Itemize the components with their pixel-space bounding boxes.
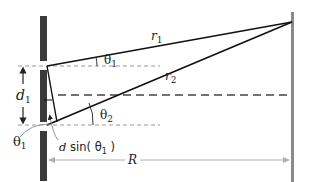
label-theta2: θ2 (100, 108, 113, 124)
label-theta1-left: θ1 (13, 134, 27, 151)
label-theta1: θ1 (104, 53, 117, 69)
perpendicular-line (47, 66, 57, 122)
screen (291, 12, 294, 182)
barrier-middle-segment (40, 70, 47, 122)
label-r1: r1 (151, 29, 162, 45)
slit-barrier (40, 16, 47, 181)
ray-r1 (47, 22, 292, 66)
barrier-top-segment (40, 16, 47, 61)
theta1-arc (96, 57, 97, 66)
label-path-difference: d sin( θ1 ) (59, 140, 115, 156)
barrier-bottom-segment (40, 131, 47, 181)
label-R: R (127, 153, 137, 167)
double-slit-diagram: r1 r2 θ1 θ2 d1 θ1 d sin( θ1 ) R (0, 0, 309, 182)
label-d1: d1 (16, 87, 31, 105)
